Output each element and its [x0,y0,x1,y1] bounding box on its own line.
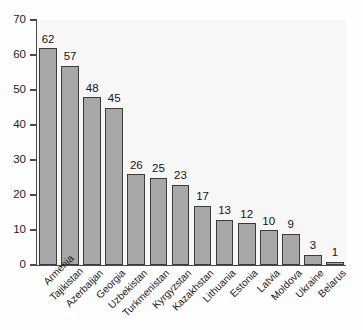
bar-value-label: 45 [97,93,131,105]
y-axis-tick [30,124,37,125]
y-axis-tick-label: 10 [2,224,26,236]
x-axis-category-label: Kazakhstan [87,268,216,330]
y-axis-tick [30,229,37,230]
y-axis-tick-label: 20 [2,189,26,201]
y-axis-tick [30,89,37,90]
bar [150,178,168,266]
bar-slot: 57 [61,20,79,265]
bar [216,220,234,266]
bar-slot: 12 [238,20,256,265]
bar-value-label: 57 [53,51,87,63]
y-axis-tick-label: 50 [2,84,26,96]
bar-value-label: 62 [31,34,65,46]
y-axis-tick [30,194,37,195]
x-axis-category-labels: ArmeniaTajikistanAzerbaijanGeorgiaUzbeki… [37,268,346,330]
y-axis-tick [30,159,37,160]
y-axis-tick-label: 30 [2,154,26,166]
y-axis-tick [30,19,37,20]
bar [127,174,145,265]
bar-value-label: 17 [186,191,220,203]
bar-slot: 1 [326,20,344,265]
bar [39,48,57,265]
bar-value-label: 23 [164,170,198,182]
bar [238,223,256,265]
bar-value-label: 9 [274,219,308,231]
bar [260,230,278,265]
bar-series: 6257484526252317131210931 [37,20,346,265]
bar-slot: 9 [282,20,300,265]
y-axis-tick-label: 70 [2,14,26,26]
bar-value-label: 1 [318,247,352,259]
y-axis-tick-label: 40 [2,119,26,131]
y-axis-tick [30,54,37,55]
bar-slot: 3 [304,20,322,265]
y-axis-tick-label: 60 [2,49,26,61]
bar-slot: 48 [83,20,101,265]
bar-slot: 13 [216,20,234,265]
bar [83,97,101,265]
bar-slot: 25 [150,20,168,265]
bar-chart-figure: 010203040506070 625748452625231713121093… [0,0,363,330]
bar-slot: 17 [194,20,212,265]
bar [105,108,123,266]
bar-slot: 45 [105,20,123,265]
bar [326,262,344,266]
bar [61,66,79,266]
y-axis-tick [30,264,37,265]
y-axis-tick-label: 0 [2,259,26,271]
bar-slot: 26 [127,20,145,265]
bar-slot: 23 [172,20,190,265]
